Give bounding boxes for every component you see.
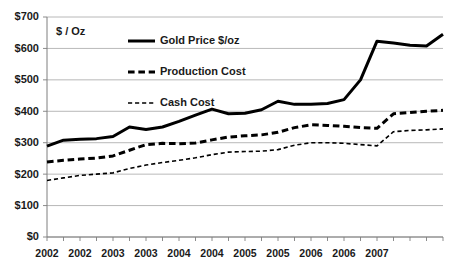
x-axis-tick-label: 2002 (35, 247, 59, 259)
x-axis-tick-label: 2005 (233, 247, 257, 259)
x-axis-tick-label: 2007 (365, 247, 389, 259)
y-axis-tick-label: $300 (15, 136, 39, 148)
y-axis-tick-label: $400 (15, 105, 39, 117)
legend-label-2: Production Cost (160, 65, 246, 77)
x-axis-tick-label: 2002 (68, 247, 92, 259)
y-axis-tick-label: $700 (15, 10, 39, 22)
x-axis-tick-label: 2004 (200, 247, 224, 259)
chart-canvas: $0$100$200$300$400$500$600$700 200220022… (0, 0, 452, 269)
gold-price-chart: $0$100$200$300$400$500$600$700 200220022… (0, 0, 452, 269)
x-axis-tick-label: 2006 (299, 247, 323, 259)
x-axis-tick-label: 2005 (266, 247, 290, 259)
x-axis-tick-label: 2003 (101, 247, 125, 259)
legend-label-3: Cash Cost (160, 96, 215, 108)
x-axis-tick-labels: 2002200220032003200420042005200520062006… (35, 247, 389, 259)
x-axis-tick-label: 2003 (134, 247, 158, 259)
y-axis-tick-label: $500 (15, 73, 39, 85)
y-axis-tick-label: $100 (15, 199, 39, 211)
y-axis-tick-label: $600 (15, 42, 39, 54)
y-axis-title: $ / Oz (56, 25, 86, 37)
x-axis-tick-label: 2006 (332, 247, 356, 259)
x-axis-tick-label: 2004 (167, 247, 191, 259)
y-axis-tick-label: $200 (15, 168, 39, 180)
y-axis-tick-label: $0 (27, 230, 39, 242)
legend-label-1: Gold Price $/oz (160, 34, 240, 46)
